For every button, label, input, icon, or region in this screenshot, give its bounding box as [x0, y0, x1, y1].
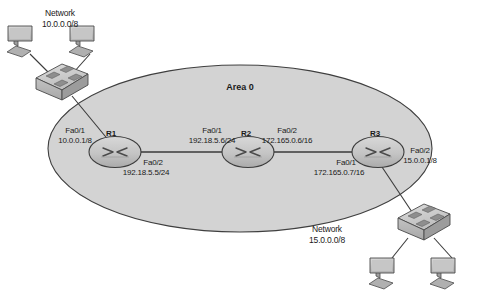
r1-name: R1	[106, 129, 116, 139]
network-right-address: 15.0.0.0/8	[309, 235, 345, 245]
diagram-graphics	[0, 0, 477, 292]
area-0-label: Area 0	[226, 82, 254, 92]
r2-fa02-address: 172.165.0.6/16	[262, 136, 313, 146]
switch-left	[36, 64, 88, 100]
workstation-bottom-right-a	[369, 258, 394, 289]
r3-fa01-port: Fa0/1	[336, 158, 355, 168]
workstation-top-left-b	[69, 26, 94, 57]
r1-fa02-port: Fa0/2	[143, 158, 162, 168]
r2-fa01-address: 192.18.5.6/24	[189, 136, 235, 146]
network-left-address: 10.0.0.0/8	[42, 19, 78, 29]
r3-name: R3	[370, 129, 380, 139]
router-r3	[352, 137, 404, 168]
workstation-top-left-a	[7, 26, 32, 57]
r2-name: R2	[241, 129, 251, 139]
link-swright-pc4	[434, 238, 452, 258]
r3-fa02-port: Fa0/2	[410, 146, 429, 156]
r1-fa01-address: 10.0.0.1/8	[58, 136, 92, 146]
network-left-title: Network	[45, 8, 75, 18]
router-r1	[89, 137, 141, 168]
network-diagram-canvas: Network 10.0.0.0/8 Area 0 Fa0/1 10.0.0.1…	[0, 0, 477, 292]
r3-fa01-address: 172.165.0.7/16	[314, 168, 365, 178]
network-right-title: Network	[312, 224, 342, 234]
r1-fa02-address: 192.18.5.5/24	[123, 168, 169, 178]
r2-fa02-port: Fa0/2	[277, 126, 296, 136]
r1-fa01-port: Fa0/1	[65, 126, 84, 136]
link-swright-pc3	[392, 238, 408, 258]
r3-fa02-address: 15.0.0.1/8	[403, 156, 437, 166]
r2-fa01-port: Fa0/1	[202, 126, 221, 136]
switch-right	[398, 204, 450, 240]
workstation-bottom-right-b	[430, 258, 455, 289]
